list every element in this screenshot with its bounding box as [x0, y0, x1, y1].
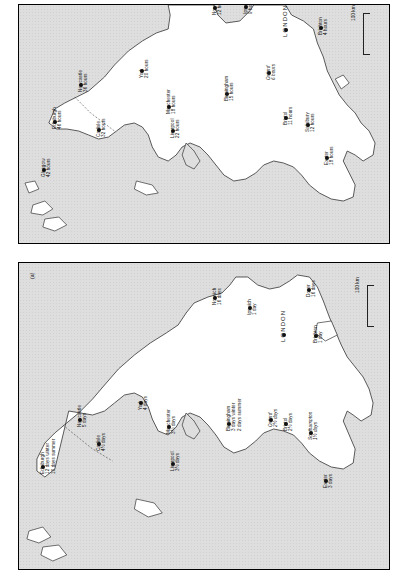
city-value: 3½ days [175, 451, 180, 471]
city-value: 3 days [328, 474, 333, 488]
city-label-exeter: Exeter3 days [323, 474, 334, 488]
city-value: 36 hours [83, 70, 88, 92]
city-label-london: LONDON [283, 5, 288, 37]
city-label-york: York4 days [138, 396, 149, 410]
city-name: LONDON [281, 310, 286, 342]
city-label-oxford: Oxford6 hours [266, 64, 277, 80]
landmass-outline-top [19, 5, 389, 243]
city-value: 1 day [252, 299, 257, 315]
city-label-london: LONDON [281, 310, 286, 342]
city-value: 5 days [82, 405, 87, 427]
city-value: 4½ days [101, 433, 106, 451]
city-value: 46 hours [57, 107, 62, 129]
city-label-dover: Dover16 days [306, 280, 317, 297]
city-label-bristol: Bristol2½ days [283, 413, 294, 431]
city-label-manchester: Manchester3½ days [166, 409, 177, 434]
scale-bar-label-top: 100 km [351, 5, 356, 21]
city-value: 16 days [217, 288, 222, 305]
city-label-oxford: Oxford2½ days [268, 409, 279, 427]
city-label-york: York20 hours [139, 59, 150, 78]
city-label-bristol: Bristol11 hours [283, 107, 294, 125]
city-label-birmingham: Birmingham15 hours [224, 75, 235, 101]
city-label-liverpool: Liverpool22 hours [170, 118, 181, 138]
city-value: 42 hours [46, 158, 51, 177]
city-value: 1 day [318, 325, 323, 343]
city-label-brighton: Brighton4 hours [318, 17, 329, 35]
city-label-manchester: Manchester18 hours [166, 89, 177, 114]
city-name: LONDON [283, 5, 288, 37]
city-value: 6 hours [271, 64, 276, 80]
city-label-carlisle: Carlisle4½ days [96, 433, 107, 451]
city-label-brighton: Brighton1 day [313, 325, 324, 343]
city-value: 2½ days [288, 413, 293, 431]
figure-page: Edinburgh46 hoursGlasgow42 hoursNewcastl… [0, 0, 408, 575]
city-label-exeter: Exeter18 hours [324, 146, 335, 165]
map-panel-top: Edinburgh46 hoursGlasgow42 hoursNewcastl… [18, 4, 390, 244]
panel-tag-a: (a) [29, 273, 35, 279]
city-label-carlisle: Carlisle32 hours [96, 118, 107, 137]
city-value: 1½ days [313, 412, 318, 440]
city-value: 32 hours [101, 118, 106, 137]
scale-bar-label-bottom: 100 km [355, 277, 360, 293]
city-label-ipswich: Ipswich1 day [247, 299, 258, 315]
city-label-newcastle: Newcastle36 hours [78, 70, 89, 92]
city-value: 4 days [143, 396, 148, 410]
city-value: 16 days [311, 280, 316, 297]
city-value: 12 hours [217, 4, 222, 15]
city-label-edinburgh: Edinburgh12 days winter10 days summer [40, 439, 56, 474]
map-panel-bottom: Edinburgh12 days winter10 days summerNew… [18, 262, 390, 570]
city-label-salisbury: Salisbury12 hours [305, 112, 316, 132]
city-value: 12 hours [310, 112, 315, 132]
city-value: 9 hours [248, 4, 253, 14]
city-label-edinburgh: Edinburgh46 hours [52, 107, 63, 129]
city-value: 2½ days [273, 409, 278, 427]
city-label-newcastle: Newcastle5 days [77, 405, 88, 427]
city-value: 18 hours [171, 89, 176, 114]
city-value: 11 hours [288, 107, 293, 125]
city-value: 4 hours [323, 17, 328, 35]
city-label-norwich: Norwich12 hours [212, 4, 223, 15]
city-label-birmingham: Birmingham3 days winter2 days summer [226, 398, 242, 431]
city-value: 18 hours [329, 146, 334, 165]
city-value: 22 hours [175, 118, 180, 138]
city-label-southampton: Southampton1½ days [308, 412, 319, 440]
city-label-ipswich: Ipswich9 hours [243, 4, 254, 14]
city-value: 20 hours [144, 59, 149, 78]
landmass-outline-bottom [19, 263, 389, 569]
city-label-liverpool: Liverpool3½ days [170, 451, 181, 471]
city-value: 3½ days [171, 409, 176, 434]
city-value: 10 days summer [51, 439, 56, 474]
city-label-norwich: Norwich16 days [212, 288, 223, 305]
city-value: 2 days summer [237, 398, 242, 431]
city-label-glasgow: Glasgow42 hours [41, 158, 52, 177]
city-value: 15 hours [229, 75, 234, 101]
